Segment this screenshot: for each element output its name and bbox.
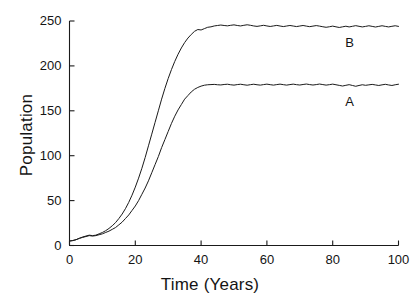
y-tick-label: 250 xyxy=(22,13,62,28)
x-tick-label: 20 xyxy=(115,252,155,267)
x-axis-title: Time (Years) xyxy=(0,275,420,295)
y-tick-label: 0 xyxy=(22,238,62,253)
curve-annotation-b: B xyxy=(345,35,354,50)
x-tick-label: 0 xyxy=(50,252,90,267)
population-growth-chart: 050100150200250 020406080100 BA Populati… xyxy=(0,0,420,302)
x-tick-label: 80 xyxy=(313,252,353,267)
x-tick-label: 100 xyxy=(379,252,419,267)
x-tick-label: 40 xyxy=(181,252,221,267)
curve-annotation-a: A xyxy=(345,94,354,109)
x-tick-label: 60 xyxy=(247,252,287,267)
y-axis-title: Population xyxy=(17,45,37,225)
